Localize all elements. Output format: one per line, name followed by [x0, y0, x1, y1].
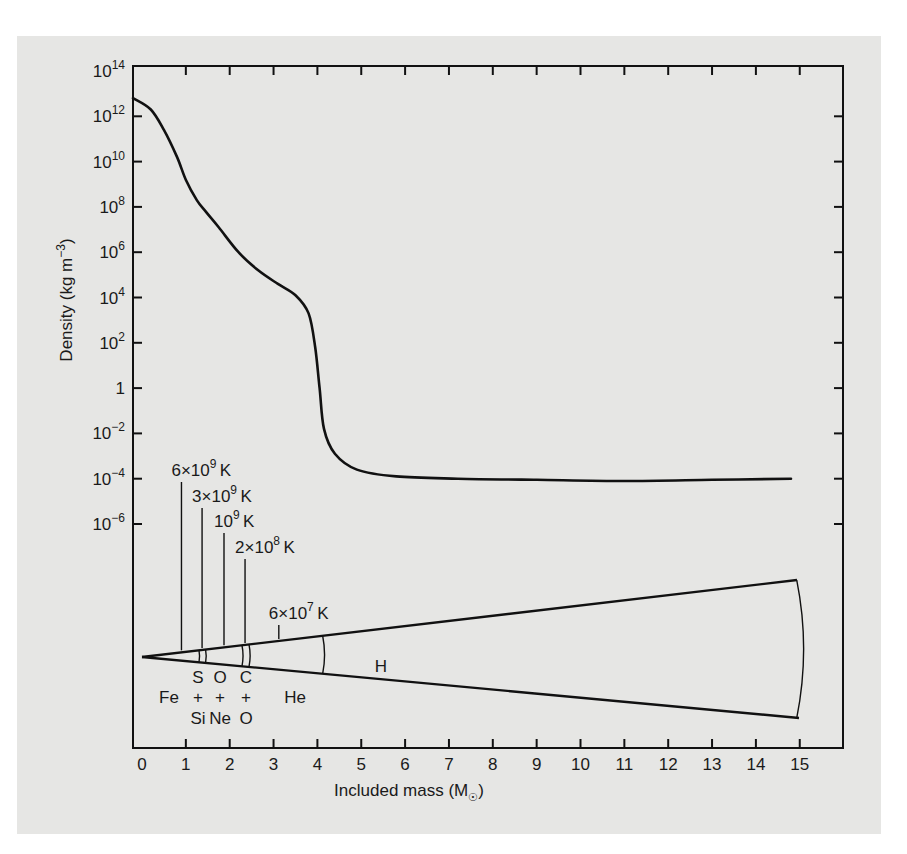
x-tick-label: 11 [616, 755, 634, 774]
y-tick-label: 1 [116, 379, 125, 398]
svg-text:Fe: Fe [159, 688, 179, 707]
svg-text:S: S [192, 668, 203, 687]
temperature-markers: 6×109 K3×109 K109 K2×108 K6×107 K [171, 457, 329, 650]
y-tick-label: 10−4 [92, 466, 125, 489]
composition-label: S+Si [190, 668, 205, 728]
temperature-marker-label: 6×109 K [171, 457, 231, 480]
x-tick-label: 0 [137, 755, 146, 774]
shell-boundary [199, 650, 200, 662]
svg-text:+: + [193, 688, 203, 707]
x-tick-label: 12 [659, 755, 678, 774]
composition-label: Fe [159, 688, 179, 707]
composition-label: He [284, 688, 306, 707]
composition-label: O+Ne [209, 668, 231, 728]
shell-boundary [206, 650, 207, 663]
x-axis-label: Included mass (M☉) [334, 781, 484, 803]
composition-labels: FeS+SiO+NeC+OHeH [159, 657, 387, 728]
shell-boundary [249, 644, 250, 667]
x-tick-label: 7 [444, 755, 453, 774]
svg-text:H: H [375, 657, 387, 676]
y-tick-label: 106 [99, 239, 125, 262]
x-tick-label: 1 [181, 755, 190, 774]
x-tick-label: 3 [269, 755, 278, 774]
x-tick-label: 4 [313, 755, 322, 774]
density-chart: 101410121010108106104102110−210−410−6 01… [0, 0, 907, 854]
cone-upper-edge [142, 580, 797, 657]
x-tick-label: 5 [357, 755, 366, 774]
temperature-marker-label: 6×107 K [269, 600, 329, 623]
y-tick-label: 10−6 [92, 511, 125, 534]
x-tick-label: 15 [790, 755, 809, 774]
temperature-marker-label: 109 K [214, 508, 255, 531]
y-tick-label: 1014 [93, 58, 126, 81]
svg-text:+: + [241, 688, 251, 707]
shell-boundary [242, 645, 243, 666]
y-tick-label: 104 [99, 285, 125, 308]
x-tick-label: 8 [488, 755, 497, 774]
composition-label: H [375, 657, 387, 676]
temperature-marker-label: 2×108 K [235, 534, 295, 557]
y-tick-label: 1012 [93, 103, 126, 126]
y-tick-label: 102 [99, 330, 125, 353]
x-tick-label: 13 [703, 755, 722, 774]
x-tick-label: 9 [532, 755, 541, 774]
svg-text:+: + [215, 688, 225, 707]
svg-text:Ne: Ne [209, 709, 231, 728]
composition-label: C+O [239, 668, 252, 728]
x-tick-label: 10 [571, 755, 590, 774]
svg-text:O: O [239, 709, 252, 728]
y-tick-label: 10−2 [92, 420, 125, 443]
y-tick-label: 1010 [93, 149, 126, 172]
x-tick-label: 14 [746, 755, 765, 774]
density-curve [133, 98, 791, 481]
shell-boundary [323, 636, 325, 674]
svg-text:C: C [240, 668, 252, 687]
x-axis-ticks: 0123456789101112131415 [137, 66, 809, 774]
x-tick-label: 2 [225, 755, 234, 774]
temperature-marker-label: 3×109 K [192, 483, 252, 506]
y-axis-label: Density (kg m−3) [54, 238, 76, 361]
svg-text:Si: Si [190, 709, 205, 728]
shell-boundary [797, 580, 804, 718]
svg-text:O: O [213, 668, 226, 687]
x-tick-label: 6 [400, 755, 409, 774]
y-tick-label: 108 [99, 194, 125, 217]
svg-text:He: He [284, 688, 306, 707]
